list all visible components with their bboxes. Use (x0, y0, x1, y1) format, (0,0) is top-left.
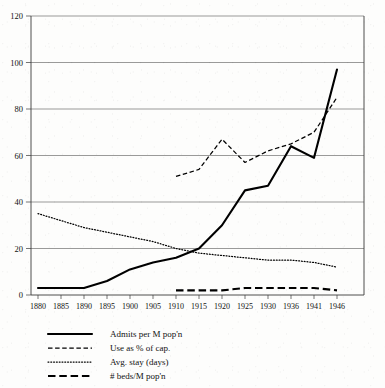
x-tick-label: 1890 (76, 302, 92, 311)
x-tick-label: 1900 (122, 302, 138, 311)
x-tick-label: 1941 (306, 302, 322, 311)
y-tick-label: 0 (19, 290, 23, 300)
x-tick-label: 1905 (145, 302, 161, 311)
x-tick-label: 1915 (191, 302, 207, 311)
y-tick-label: 100 (10, 58, 23, 68)
x-tick-label: 1895 (99, 302, 115, 311)
y-tick-label: 120 (10, 11, 23, 21)
chart-background (0, 0, 385, 388)
y-tick-label: 40 (15, 197, 24, 207)
y-tick-label: 80 (15, 104, 24, 114)
x-tick-label: 1936 (283, 302, 299, 311)
line-chart: 0 20 40 60 80 100 120 188018851890189519… (0, 0, 385, 388)
x-tick-label: 1925 (237, 302, 253, 311)
x-tick-label: 1880 (30, 302, 46, 311)
legend-label: Admits per M pop'n (110, 329, 183, 339)
legend-label: # beds/M pop'n (110, 371, 166, 381)
legend-label: Use as % of cap. (110, 343, 170, 353)
x-tick-label: 1885 (53, 302, 69, 311)
x-tick-label: 1946 (329, 302, 345, 311)
y-tick-label: 20 (15, 244, 24, 254)
x-tick-label: 1920 (214, 302, 230, 311)
legend-label: Avg. stay (days) (110, 357, 169, 367)
y-tick-label: 60 (15, 151, 24, 161)
x-tick-label: 1930 (260, 302, 276, 311)
x-tick-label: 1910 (168, 302, 184, 311)
